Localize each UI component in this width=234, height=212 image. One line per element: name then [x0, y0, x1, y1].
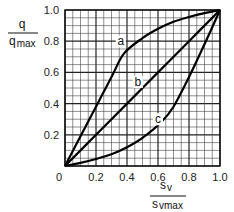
y-tick-label: 0.4 — [44, 98, 59, 110]
x-label-numerator: sv — [160, 178, 172, 193]
curve-label-c: c — [155, 112, 161, 126]
x-tick-label: 0.8 — [181, 171, 196, 183]
curve-label-a: a — [117, 34, 124, 48]
y-tick-label: 1.0 — [44, 4, 59, 16]
origin-label: 0 — [56, 171, 62, 183]
y-axis-label: q qmax — [8, 17, 38, 49]
x-label-denominator: svmax — [152, 197, 183, 211]
x-tick-label: 1.0 — [212, 171, 227, 183]
y-tick-label: 0.8 — [44, 35, 59, 47]
chart: abc 0.20.40.60.81.00.20.40.60.81.00 q qm… — [0, 0, 234, 212]
y-tick-label: 0.2 — [44, 129, 59, 141]
curve-label-b: b — [135, 75, 142, 89]
x-tick-label: 0.2 — [88, 171, 103, 183]
x-tick-label: 0.4 — [119, 171, 134, 183]
y-label-numerator: q — [19, 17, 26, 31]
y-label-denominator: qmax — [9, 34, 36, 49]
y-tick-label: 0.6 — [44, 66, 59, 78]
